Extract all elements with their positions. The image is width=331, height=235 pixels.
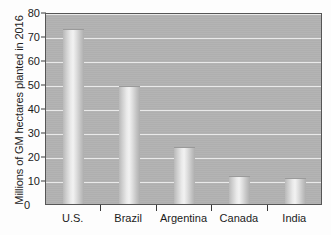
bar [285, 178, 306, 204]
bar [63, 29, 84, 204]
gridline [46, 38, 321, 39]
y-axis-tick-label: 30 [16, 127, 40, 139]
gridline [46, 62, 321, 63]
x-axis-tick-mark [100, 205, 101, 211]
x-axis-tick-label: India [282, 212, 306, 224]
gridline [46, 86, 321, 87]
x-axis: U.S.BrazilArgentinaCanadaIndia [45, 205, 322, 235]
y-axis-tick-label: 20 [16, 151, 40, 163]
gridline [46, 14, 321, 15]
x-axis-tick-mark [267, 205, 268, 211]
y-axis-tick-label: 80 [16, 7, 40, 19]
gridline [46, 134, 321, 135]
y-axis-tick-label: 40 [16, 103, 40, 115]
x-axis-tick-label: Brazil [114, 212, 142, 224]
x-axis-tick-label: Argentina [160, 212, 207, 224]
y-axis-tick-label: 70 [16, 31, 40, 43]
y-axis-zero-label: 0 [24, 199, 30, 211]
x-axis-tick-mark [211, 205, 212, 211]
x-axis-tick-mark [156, 205, 157, 211]
bar [174, 147, 195, 204]
bar [119, 86, 140, 204]
y-axis-tick-label: 10 [16, 175, 40, 187]
x-axis-tick-label: Canada [220, 212, 259, 224]
y-axis-tick-label: 60 [16, 55, 40, 67]
bar-chart-figure: Millions of GM hectares planted in 2016 … [0, 0, 331, 235]
gridline [46, 110, 321, 111]
bar [229, 176, 250, 204]
x-axis-tick-label: U.S. [62, 212, 83, 224]
y-axis-tick-label: 50 [16, 79, 40, 91]
plot-area [45, 13, 322, 205]
